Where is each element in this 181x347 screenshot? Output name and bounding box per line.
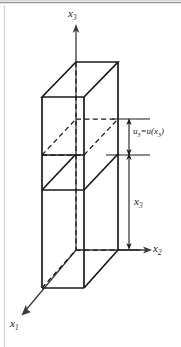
axis-label-x2: x2 bbox=[153, 243, 162, 257]
prism-outline bbox=[42, 62, 118, 288]
annotation-height: x3 bbox=[134, 196, 143, 210]
axis-label-x1: x1 bbox=[10, 318, 19, 332]
axis-label-x3: x3 bbox=[68, 8, 77, 22]
annotation-displacement: u3=u(x3) bbox=[133, 127, 164, 139]
dashed-cross-section bbox=[42, 119, 118, 155]
top-face bbox=[42, 62, 118, 97]
solid-cross-section bbox=[42, 154, 118, 190]
prism-diagram bbox=[0, 0, 181, 347]
figure-container: x3 x2 x1 u3=u(x3) x3 bbox=[0, 0, 181, 347]
hidden-edges bbox=[42, 62, 118, 288]
page-frame bbox=[0, 1, 181, 347]
